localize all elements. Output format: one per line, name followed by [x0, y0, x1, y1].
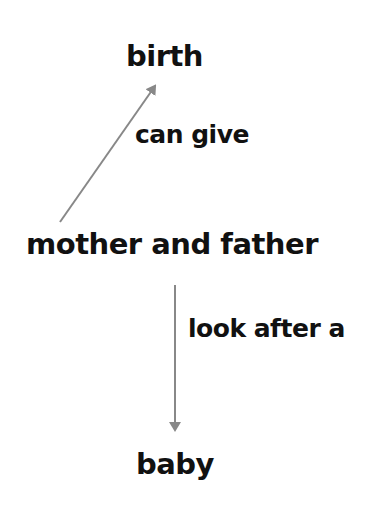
edge-label-look-after-a: look after a	[188, 316, 345, 341]
node-birth: birth	[126, 42, 203, 71]
node-mother-and-father: mother and father	[26, 230, 318, 259]
edge-label-can-give: can give	[135, 122, 249, 147]
node-baby: baby	[136, 450, 214, 479]
arrow-can-give	[60, 86, 155, 222]
